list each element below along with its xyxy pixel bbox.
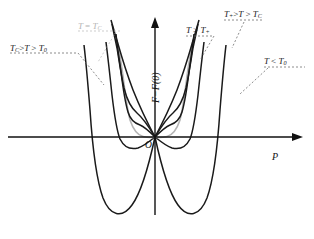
label-tplus-t-tc: T+>T > TC <box>224 10 262 19</box>
label-tc-t-t0: TC>T > T0 <box>10 44 47 53</box>
label-t-lt-t0: T < T0 <box>264 57 287 66</box>
free-energy-polarization-figure: T > T+ T+>T > TC T = TC TC>T > T0 T < T0… <box>0 0 314 239</box>
plot-canvas <box>0 0 314 239</box>
y-axis-label: F−F(0) <box>150 72 161 103</box>
label-t-eq-tc: T = TC <box>78 22 102 31</box>
label-t-gt-tplus: T > T+ <box>186 26 210 35</box>
x-axis-label: P <box>272 151 278 162</box>
axis-y <box>151 17 159 215</box>
origin-label: O <box>145 140 152 150</box>
